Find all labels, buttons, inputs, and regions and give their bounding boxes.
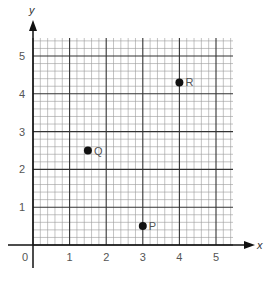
y-tick-label: 1 bbox=[19, 201, 25, 213]
x-tick-label: 5 bbox=[213, 251, 219, 263]
x-tick-label: 3 bbox=[140, 251, 146, 263]
minor-grid bbox=[33, 38, 233, 245]
point-q: Q bbox=[84, 145, 103, 157]
point-marker-icon bbox=[175, 78, 183, 86]
y-tick-label: 3 bbox=[19, 126, 25, 138]
x-axis-label: x bbox=[256, 239, 263, 251]
coordinate-plot: 01234512345 PQR x y bbox=[0, 0, 275, 282]
point-p: P bbox=[139, 220, 156, 232]
major-grid bbox=[33, 38, 233, 245]
y-axis-label: y bbox=[28, 4, 36, 16]
point-label: P bbox=[149, 220, 156, 232]
point-marker-icon bbox=[84, 147, 92, 155]
x-tick-label: 0 bbox=[22, 251, 28, 263]
y-tick-label: 2 bbox=[19, 163, 25, 175]
point-label: Q bbox=[94, 145, 103, 157]
x-tick-label: 1 bbox=[67, 251, 73, 263]
axes bbox=[8, 20, 255, 268]
point-label: R bbox=[185, 76, 193, 88]
x-tick-label: 2 bbox=[103, 251, 109, 263]
y-axis-arrow-icon bbox=[29, 20, 37, 31]
x-axis-arrow-icon bbox=[244, 241, 255, 249]
x-tick-label: 4 bbox=[176, 251, 182, 263]
y-tick-label: 4 bbox=[19, 88, 25, 100]
point-r: R bbox=[175, 76, 193, 88]
y-tick-label: 5 bbox=[19, 50, 25, 62]
point-marker-icon bbox=[139, 222, 147, 230]
